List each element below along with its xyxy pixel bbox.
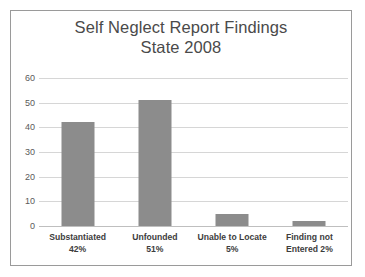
bar[interactable] xyxy=(216,214,249,226)
x-axis-category-name: Finding not xyxy=(286,232,333,242)
x-axis-category-label: Finding notEntered 2% xyxy=(271,231,348,255)
x-axis-category-percent: Entered 2% xyxy=(271,243,348,255)
axis-baseline xyxy=(39,226,348,227)
x-axis: Substantiated42%Unfounded51%Unable to Lo… xyxy=(39,231,348,265)
y-axis-tick-label: 10 xyxy=(11,196,35,206)
bar-slot xyxy=(194,78,271,226)
y-axis: 0102030405060 xyxy=(11,78,35,226)
y-axis-tick-label: 20 xyxy=(11,172,35,182)
chart-title-line-1: Self Neglect Report Findings xyxy=(75,18,288,36)
chart-title-line-2: State 2008 xyxy=(11,37,351,57)
bar-slot xyxy=(271,78,348,226)
y-axis-tick-label: 40 xyxy=(11,122,35,132)
y-axis-tick-label: 50 xyxy=(11,98,35,108)
bar[interactable] xyxy=(293,221,326,226)
x-axis-category-percent: 42% xyxy=(39,243,116,255)
chart-frame: Self Neglect Report Findings State 2008 … xyxy=(10,10,352,266)
x-axis-category-name: Unfounded xyxy=(132,232,177,242)
x-axis-category-label: Unfounded51% xyxy=(116,231,193,255)
plot-area xyxy=(39,78,348,226)
bar-slot xyxy=(116,78,193,226)
x-axis-category-percent: 5% xyxy=(194,243,271,255)
x-axis-category-label: Unable to Locate5% xyxy=(194,231,271,255)
bar[interactable] xyxy=(61,122,94,226)
bar-slot xyxy=(39,78,116,226)
x-axis-category-name: Substantiated xyxy=(49,232,106,242)
y-axis-tick-label: 60 xyxy=(11,73,35,83)
x-axis-category-label: Substantiated42% xyxy=(39,231,116,255)
x-axis-category-percent: 51% xyxy=(116,243,193,255)
y-axis-tick-label: 0 xyxy=(11,221,35,231)
bar-series xyxy=(39,78,348,226)
y-axis-tick-label: 30 xyxy=(11,147,35,157)
bar[interactable] xyxy=(138,100,171,226)
x-axis-category-name: Unable to Locate xyxy=(198,232,267,242)
chart-title: Self Neglect Report Findings State 2008 xyxy=(11,17,351,57)
